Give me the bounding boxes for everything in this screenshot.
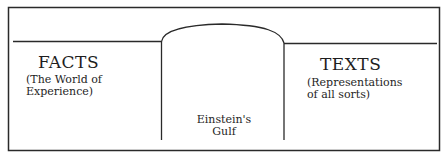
gulf-label-line2: Gulf: [182, 126, 266, 138]
facts-subtitle-line2: Experience): [26, 86, 93, 98]
texts-subtitle-line2: of all sorts): [307, 89, 370, 101]
facts-title: FACTS: [38, 52, 99, 72]
gulf-arch: [162, 24, 285, 43]
texts-title: TEXTS: [320, 54, 381, 74]
facts-texts-gulf-diagram: FACTS (The World of Experience) TEXTS (R…: [0, 0, 448, 158]
